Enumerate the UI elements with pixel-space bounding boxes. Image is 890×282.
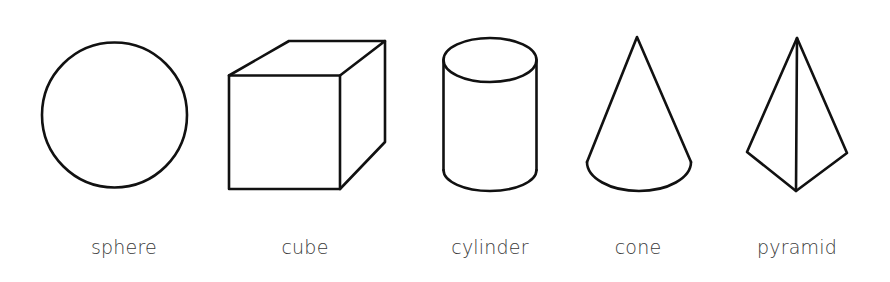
cylinder-shape xyxy=(444,38,537,191)
cube-shape xyxy=(229,41,385,189)
cone-label: cone xyxy=(615,236,662,258)
cylinder-label: cylinder xyxy=(451,236,528,258)
pyramid-shape xyxy=(747,38,847,191)
sphere-shape xyxy=(42,43,187,188)
sphere-label: sphere xyxy=(91,236,157,258)
pyramid-label: pyramid xyxy=(757,236,837,258)
cone-shape xyxy=(587,37,691,191)
cube-label: cube xyxy=(281,236,328,258)
